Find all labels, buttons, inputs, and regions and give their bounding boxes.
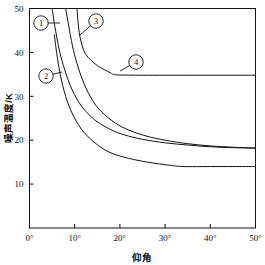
x-axis-title: 仰角 [132, 252, 152, 263]
y-tick-label: 20 [15, 135, 25, 145]
curve-1 [52, 9, 255, 149]
x-axis-ticks: 0°10°20°30°40°50° [25, 224, 262, 243]
plot-frame [30, 9, 256, 229]
x-tick-label: 20° [114, 233, 127, 243]
y-tick-label: 50 [15, 4, 25, 14]
curve-callouts: 1234 [34, 14, 143, 83]
noise-temperature-elevation-chart: 1020304050 0°10°20°30°40°50° 1234 仰角 噪声温… [0, 0, 265, 265]
x-tick-label: 0° [25, 233, 34, 243]
callout-label-②: 2 [44, 71, 48, 81]
chart-canvas: 1020304050 0°10°20°30°40°50° 1234 仰角 噪声温… [0, 0, 265, 265]
y-tick-label: 10 [15, 179, 25, 189]
y-axis-ticks: 1020304050 [15, 4, 34, 190]
x-tick-label: 10° [68, 233, 81, 243]
callout-label-①: 1 [39, 18, 43, 28]
callout-label-③: 3 [94, 16, 98, 26]
y-axis-title: 噪声温度/K [3, 93, 14, 143]
y-tick-label: 40 [15, 48, 25, 58]
x-tick-label: 50° [249, 233, 262, 243]
curve-4 [77, 9, 256, 76]
x-tick-label: 30° [159, 233, 172, 243]
y-tick-label: 30 [15, 92, 25, 102]
curve-3 [66, 9, 256, 149]
x-tick-label: 40° [204, 233, 217, 243]
